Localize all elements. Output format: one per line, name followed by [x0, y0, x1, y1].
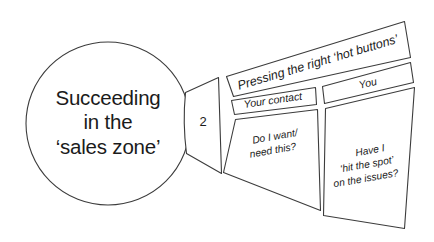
circle-title-line-3: ‘sales zone’ [56, 135, 161, 158]
wedge-number-label: 2 [199, 114, 206, 129]
circle-title-line-2: in the [84, 110, 133, 133]
diagram-canvas: Succeeding in the ‘sales zone’ 2 Pressin… [0, 0, 434, 242]
column-1-body-shape [224, 110, 321, 211]
circle-title-line-1: Succeeding [55, 86, 160, 109]
fan-diagram: Succeeding in the ‘sales zone’ 2 Pressin… [0, 0, 434, 242]
